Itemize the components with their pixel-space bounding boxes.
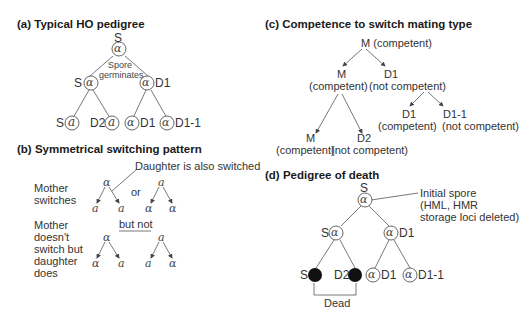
node-label: D1 (381, 268, 396, 282)
node-label: D1-1 (418, 268, 444, 282)
callout-line: storage loci deleted) (420, 211, 519, 223)
node-type: α (368, 268, 375, 281)
node-label: D1 (399, 226, 414, 240)
node-label: S (321, 226, 329, 240)
node-label: D2 (334, 268, 349, 282)
node-label: S (300, 268, 308, 282)
root-type: α (360, 193, 367, 206)
dead-label: Dead (324, 297, 350, 309)
callout-line: Initial spore (420, 187, 476, 199)
node-type: α (405, 268, 412, 281)
node-type: α (386, 226, 393, 239)
panel-d-tree-lines (0, 0, 529, 312)
node-type: α (331, 226, 338, 239)
callout-line: (HML, HMR (420, 199, 478, 211)
